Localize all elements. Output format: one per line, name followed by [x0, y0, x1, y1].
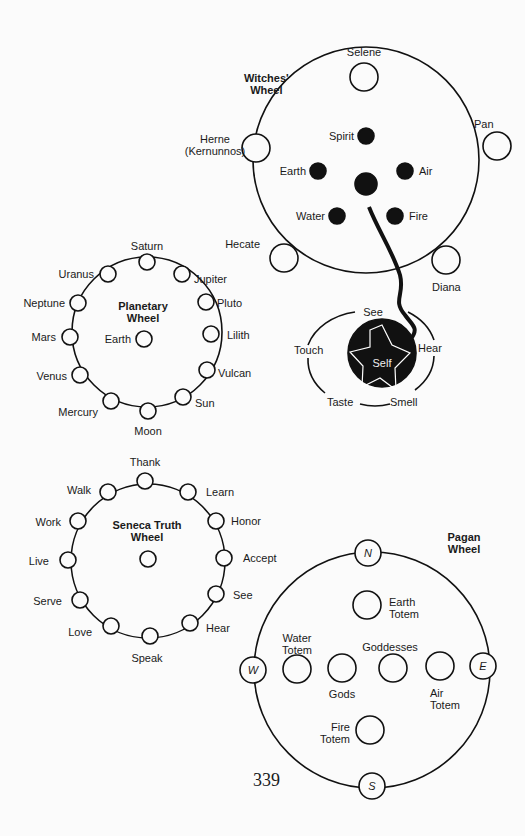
label-uranus: Uranus	[59, 268, 94, 280]
label-pan: Pan	[474, 118, 494, 130]
label-goddesses: Goddesses	[362, 641, 418, 653]
label-honor: Honor	[231, 515, 261, 527]
label-accept: Accept	[243, 552, 277, 564]
label-diana: Diana	[432, 281, 461, 293]
label-north: N	[364, 547, 372, 559]
label-work: Work	[36, 516, 61, 528]
title-line1: Pagan	[447, 531, 480, 543]
label-sun: Sun	[195, 397, 215, 409]
seneca-wheel	[60, 473, 232, 644]
label-venus: Venus	[36, 370, 67, 382]
title-line2: Wheel	[118, 312, 168, 324]
label-west: W	[248, 664, 258, 676]
line2: Totem	[282, 644, 312, 656]
label-jupiter: Jupiter	[194, 273, 227, 285]
planetary-wheel-title: PlanetaryWheel	[118, 300, 168, 324]
line2: Totem	[320, 733, 350, 745]
line1: Water	[282, 632, 312, 644]
line2: Totem	[430, 699, 460, 711]
label-see: See	[363, 306, 383, 318]
herne-line1: Herne	[185, 133, 246, 145]
seneca-wheel-title: Seneca TruthWheel	[112, 519, 181, 543]
line1: Fire	[320, 721, 350, 733]
label-neptune: Neptune	[23, 297, 65, 309]
label-fire: Fire	[409, 210, 428, 222]
label-earth-center: Earth	[105, 333, 131, 345]
label-mars: Mars	[32, 331, 56, 343]
label-earth-totem: EarthTotem	[389, 596, 419, 620]
title-line1: Witches'	[244, 72, 289, 84]
line2: Totem	[389, 608, 419, 620]
label-selene: Selene	[347, 46, 381, 58]
label-moon: Moon	[134, 425, 162, 437]
label-thank: Thank	[130, 456, 161, 468]
label-herne: Herne(Kernunnos)	[185, 133, 246, 157]
label-vulcan: Vulcan	[218, 367, 251, 379]
pagan-wheel-title: PaganWheel	[447, 531, 480, 555]
label-hecate: Hecate	[225, 238, 260, 250]
label-air: Air	[419, 165, 432, 177]
label-saturn: Saturn	[131, 240, 163, 252]
label-touch: Touch	[294, 344, 323, 356]
label-live: Live	[29, 555, 49, 567]
label-mercury: Mercury	[58, 406, 98, 418]
label-smell: Smell	[390, 396, 418, 408]
line1: Earth	[389, 596, 419, 608]
label-south: S	[368, 780, 375, 792]
label-serve: Serve	[33, 595, 62, 607]
line1: Air	[430, 687, 460, 699]
label-hear2: Hear	[206, 622, 230, 634]
label-lilith: Lilith	[227, 329, 250, 341]
label-self-center: Self	[373, 357, 392, 369]
witches-wheel-title: Witches'Wheel	[244, 72, 289, 96]
title-line1: Seneca Truth	[112, 519, 181, 531]
herne-line2: (Kernunnos)	[185, 145, 246, 157]
book-page: Witches'Wheel Selene Pan Diana Hecate He…	[0, 0, 525, 836]
label-hear: Hear	[418, 342, 442, 354]
label-east: E	[479, 660, 486, 672]
label-love: Love	[68, 626, 92, 638]
label-water: Water	[296, 210, 325, 222]
title-line2: Wheel	[447, 543, 480, 555]
label-air-totem: AirTotem	[430, 687, 460, 711]
page-number: 339	[253, 774, 280, 786]
label-speak: Speak	[131, 652, 162, 664]
title-line1: Planetary	[118, 300, 168, 312]
label-walk: Walk	[67, 484, 91, 496]
title-line2: Wheel	[112, 531, 181, 543]
label-pluto: Pluto	[217, 297, 242, 309]
title-line2: Wheel	[244, 84, 289, 96]
label-fire-totem: FireTotem	[320, 721, 350, 745]
label-spirit: Spirit	[329, 130, 354, 142]
label-earth: Earth	[280, 165, 306, 177]
pagan-wheel	[240, 540, 496, 799]
label-learn: Learn	[206, 486, 234, 498]
label-gods: Gods	[329, 688, 355, 700]
label-water-totem: WaterTotem	[282, 632, 312, 656]
label-see2: See	[233, 589, 253, 601]
label-taste: Taste	[327, 396, 353, 408]
